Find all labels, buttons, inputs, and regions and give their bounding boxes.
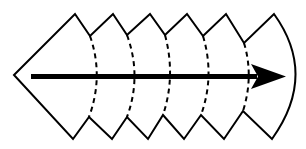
arrow-shaft: [31, 74, 257, 79]
diagram-canvas: [0, 0, 306, 149]
fish-diagram: [0, 0, 306, 149]
